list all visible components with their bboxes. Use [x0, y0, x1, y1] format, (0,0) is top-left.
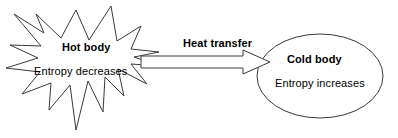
hot-body-subtitle: Entropy decreases: [34, 66, 127, 77]
cold-body-title: Cold body: [287, 54, 342, 65]
heat-transfer-label: Heat transfer: [183, 38, 252, 49]
heat-transfer-diagram: Hot body Entropy decreases Heat transfer…: [0, 0, 398, 138]
hot-body-title: Hot body: [62, 42, 110, 53]
cold-body-subtitle: Entropy increases: [275, 78, 365, 89]
cold-body-ellipse-shape: [257, 34, 383, 118]
heat-transfer-arrow-shape: [141, 50, 270, 74]
